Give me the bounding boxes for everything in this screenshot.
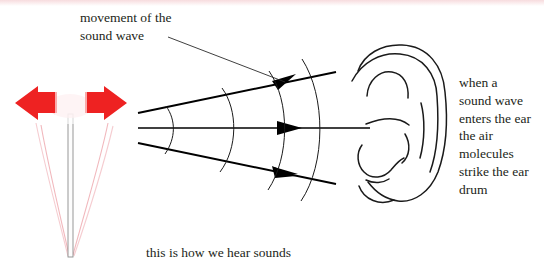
diagram-canvas: movement of thesound wave when a sound w…	[0, 0, 544, 277]
label-movement-line1: movement of the	[80, 10, 171, 25]
tuning-fork	[36, 114, 113, 257]
fork-prong-left	[41, 125, 69, 255]
ear-concha-ridge	[366, 119, 409, 125]
arrowhead-middle	[277, 121, 302, 135]
vibration-arrow-left	[15, 86, 57, 120]
vibration-arrow-right	[85, 86, 127, 120]
label-movement-line2: sound wave	[80, 28, 144, 43]
fork-prong-right-outer	[74, 126, 113, 256]
sound-wave-rays	[138, 72, 370, 184]
caption-this-is-how-we-hear-sounds: this is how we hear sounds	[146, 244, 291, 261]
ear-helix-outer	[358, 45, 446, 201]
text-ear-explanation: when a sound wave enters the ear the air…	[459, 74, 531, 199]
wavefront-arc-1	[165, 106, 173, 154]
leader-line	[168, 37, 285, 82]
ray-arrowheads	[272, 74, 302, 178]
label-movement-of-sound-wave: movement of thesound wave	[80, 9, 171, 44]
fork-prong-right	[73, 123, 108, 255]
fork-stem	[68, 114, 73, 257]
ear-tragus	[358, 145, 404, 177]
ear-antihelix-lower	[420, 103, 424, 158]
vibration-arrows	[15, 84, 127, 124]
vibration-fade	[55, 84, 87, 124]
ear-illustration	[352, 45, 446, 202]
ray-upper	[138, 72, 336, 113]
ear-antitragus	[366, 179, 389, 183]
fork-prong-left-outer	[36, 123, 68, 256]
ear-antihelix-upper	[367, 72, 408, 98]
ear-lobe	[359, 186, 394, 202]
ear-helix-inner	[352, 54, 438, 172]
wavefront-arc-2	[220, 88, 234, 172]
